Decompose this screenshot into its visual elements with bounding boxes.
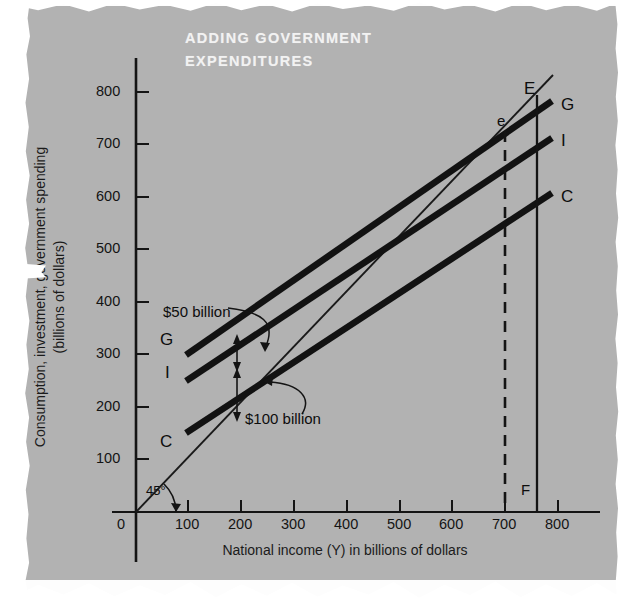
x-tick-label: 500 — [387, 516, 411, 532]
series-label-left-I: I — [165, 363, 170, 383]
angle-arrow-head — [171, 503, 181, 512]
foot-point-label-F: F — [521, 481, 530, 498]
annotation-gap-50-label: $50 billion — [163, 303, 231, 320]
equilibrium-point-label-e: e — [497, 112, 505, 129]
y-tick-label: 400 — [96, 293, 120, 309]
y-tick-label: 500 — [96, 240, 120, 256]
series-line-I — [186, 138, 552, 381]
x-tick-label: 700 — [492, 516, 516, 532]
annotation-angle-45-label: 45° — [146, 483, 166, 498]
series-label-left-G: G — [160, 330, 173, 350]
annotation-gap-100-label: $100 billion — [245, 410, 321, 427]
series-label-right-G: G — [561, 95, 574, 115]
y-tick-label: 100 — [96, 450, 120, 466]
y-axis-label: Consumption, investment, government spen… — [31, 97, 69, 497]
x-tick-label: 300 — [281, 516, 305, 532]
y-tick-label: 600 — [96, 188, 120, 204]
y-tick-label: 700 — [96, 135, 120, 151]
x-tick-label: 400 — [334, 516, 358, 532]
y-tick-label: 200 — [96, 398, 120, 414]
chart-title: ADDING GOVERNMENT EXPENDITURES — [185, 27, 372, 73]
series-label-right-E: E — [524, 79, 535, 99]
x-axis-label: National income (Y) in billions of dolla… — [135, 542, 555, 558]
y-tick-label: 800 — [96, 83, 120, 99]
gap-50-indicator — [233, 334, 241, 372]
series-label-right-I: I — [561, 131, 566, 151]
torn-edge-right — [615, 0, 635, 605]
gap-50-leader-arrow — [260, 342, 270, 352]
y-tick-label: 0 — [117, 516, 125, 532]
series-label-right-C: C — [561, 187, 573, 207]
x-tick-label: 600 — [439, 516, 463, 532]
x-tick-label: 800 — [545, 516, 569, 532]
x-tick-label: 100 — [175, 516, 199, 532]
torn-edge-left — [0, 0, 30, 605]
y-tick-label: 300 — [96, 345, 120, 361]
y-axis-ticks — [136, 92, 149, 459]
figure-canvas: ADDING GOVERNMENT EXPENDITURES Consumpti… — [0, 0, 635, 605]
series-label-left-C: C — [160, 432, 172, 452]
x-axis-ticks — [188, 500, 558, 512]
x-tick-label: 200 — [228, 516, 252, 532]
